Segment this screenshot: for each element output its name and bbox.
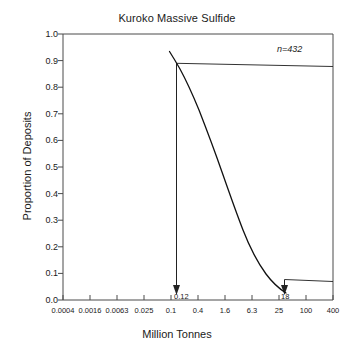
tonnage-curve bbox=[170, 52, 287, 294]
lower-percentile-arrow bbox=[173, 63, 180, 295]
x-tick-marks bbox=[63, 295, 333, 300]
chart-figure: Kuroko Massive Sulfide Proportion of Dep… bbox=[0, 0, 354, 350]
lower-plateau-line bbox=[285, 280, 334, 282]
y-tick-marks bbox=[58, 34, 63, 300]
plot-axes bbox=[63, 34, 333, 300]
chart-plot-svg bbox=[0, 0, 354, 350]
upper-plateau-line bbox=[177, 63, 334, 66]
